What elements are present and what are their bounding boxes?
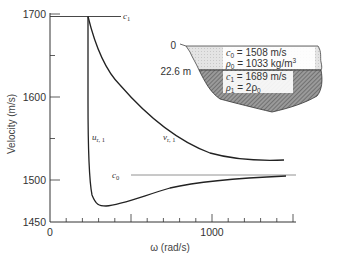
y-tick-1500: 1500: [23, 174, 47, 186]
inset-depth-22-6: 22.6 m: [160, 66, 191, 77]
inset-rho1: ρ1 = 2ρ0: [225, 82, 261, 94]
dispersion-chart: 1700 1600 1500 1450 0 1000 Velocity (m/s…: [0, 0, 349, 259]
reference-line-c1: c1: [50, 11, 130, 22]
inset-rho0: ρ0 = 1033 kg/m3: [225, 57, 297, 70]
y-tick-1450: 1450: [23, 216, 47, 228]
x-axis-title: ω (rad/s): [150, 242, 189, 253]
reference-line-c0: c0: [112, 170, 296, 181]
y-tick-1600: 1600: [23, 91, 47, 103]
svg-text:c1: c1: [123, 11, 130, 22]
label-u-r1: ur, 1: [92, 132, 105, 143]
svg-text:c0: c0: [112, 170, 119, 181]
inset-depth-0: 0: [170, 40, 176, 51]
y-axis-title: Velocity (m/s): [6, 94, 17, 154]
x-tick-1000: 1000: [200, 226, 224, 238]
inset-diagram: 0 22.6 m c0 = 1508 m/s ρ0 = 1033 kg/m3 c…: [160, 40, 322, 112]
x-tick-0: 0: [47, 226, 53, 238]
y-ticks: [50, 14, 60, 180]
x-ticks: [66, 214, 293, 222]
y-tick-1700: 1700: [23, 8, 47, 20]
